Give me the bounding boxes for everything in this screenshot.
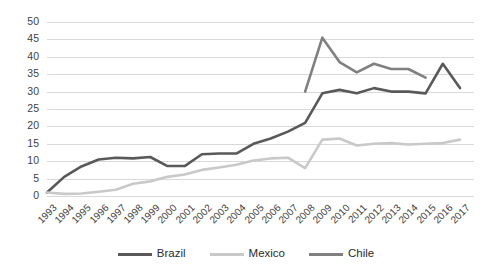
series-line-chile xyxy=(305,38,425,92)
chart-legend: BrazilMexicoChile xyxy=(0,243,492,265)
legend-label: Chile xyxy=(348,248,374,260)
legend-label: Brazil xyxy=(157,248,186,260)
line-chart: 05101520253035404550 1993199419951996199… xyxy=(0,0,492,271)
legend-item-chile[interactable]: Chile xyxy=(309,248,374,260)
plot-area xyxy=(0,0,492,271)
legend-swatch-mexico xyxy=(210,253,244,256)
legend-label: Mexico xyxy=(249,248,285,260)
series-line-brazil xyxy=(47,64,460,193)
legend-item-mexico[interactable]: Mexico xyxy=(210,248,285,260)
series-line-mexico xyxy=(47,139,460,194)
legend-swatch-brazil xyxy=(118,253,152,256)
legend-item-brazil[interactable]: Brazil xyxy=(118,248,186,260)
legend-swatch-chile xyxy=(309,253,343,256)
